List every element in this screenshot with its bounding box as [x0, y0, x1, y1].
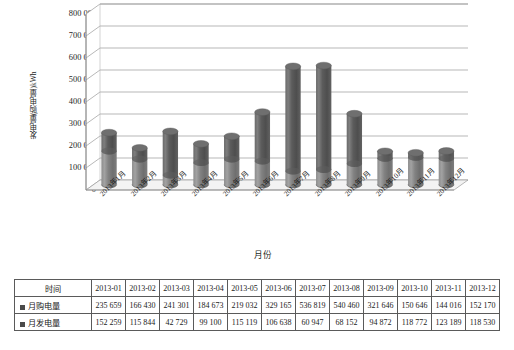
table-cell: 123 189: [432, 314, 466, 331]
table-cell: 94 872: [364, 314, 398, 331]
table-column-header: 2013-09: [364, 280, 398, 297]
table-column-header: 2013-05: [228, 280, 262, 297]
plot-svg: [0, 0, 514, 272]
table-column-header: 2013-08: [330, 280, 364, 297]
table-cell: 118 772: [398, 314, 432, 331]
table-cell: 150 646: [398, 297, 432, 314]
legend-swatch-icon: [20, 305, 25, 310]
data-table-wrap: 时间2013-012013-022013-032013-042013-05201…: [14, 279, 500, 331]
table-series-label: 月购电量: [15, 297, 92, 314]
table-cell: 115 119: [228, 314, 262, 331]
table-cell: 235 659: [92, 297, 126, 314]
table-series-label-text: 月购电量: [28, 302, 60, 311]
table-header-time: 时间: [15, 280, 92, 297]
table-column-header: 2013-03: [160, 280, 194, 297]
chart-area: 发电量(购电量)kWh 0100 000200 000300 000400 00…: [0, 0, 514, 272]
table-cell: 321 646: [364, 297, 398, 314]
table-column-header: 2013-04: [194, 280, 228, 297]
table-cell: 166 430: [126, 297, 160, 314]
table-cell: 144 016: [432, 297, 466, 314]
table-cell: 152 170: [466, 297, 500, 314]
table-row: 时间2013-012013-022013-032013-042013-05201…: [15, 280, 500, 297]
table-row: 月发电量152 259115 84442 72999 100115 119106…: [15, 314, 500, 331]
table-column-header: 2013-07: [296, 280, 330, 297]
data-table: 时间2013-012013-022013-032013-042013-05201…: [14, 279, 500, 331]
table-cell: 184 673: [194, 297, 228, 314]
table-cell: 115 844: [126, 314, 160, 331]
table-cell: 99 100: [194, 314, 228, 331]
table-cell: 540 460: [330, 297, 364, 314]
table-cell: 60 947: [296, 314, 330, 331]
table-series-label: 月发电量: [15, 314, 92, 331]
table-cell: 536 819: [296, 297, 330, 314]
table-column-header: 2013-01: [92, 280, 126, 297]
table-cell: 152 259: [92, 314, 126, 331]
table-column-header: 2013-02: [126, 280, 160, 297]
legend-swatch-icon: [20, 322, 25, 327]
table-cell: 68 152: [330, 314, 364, 331]
table-column-header: 2013-10: [398, 280, 432, 297]
table-series-label-text: 月发电量: [28, 319, 60, 328]
table-column-header: 2013-12: [466, 280, 500, 297]
table-cell: 118 530: [466, 314, 500, 331]
table-cell: 241 301: [160, 297, 194, 314]
table-cell: 329 165: [262, 297, 296, 314]
table-cell: 219 032: [228, 297, 262, 314]
table-cell: 42 729: [160, 314, 194, 331]
figure-root: 发电量(购电量)kWh 0100 000200 000300 000400 00…: [0, 0, 514, 350]
table-column-header: 2013-06: [262, 280, 296, 297]
table-cell: 106 638: [262, 314, 296, 331]
table-column-header: 2013-11: [432, 280, 466, 297]
x-axis-title: 月份: [254, 248, 272, 260]
table-row: 月购电量235 659166 430241 301184 673219 0323…: [15, 297, 500, 314]
